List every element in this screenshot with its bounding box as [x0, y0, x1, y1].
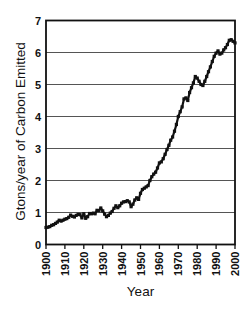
data-point: [139, 192, 142, 195]
data-point: [188, 91, 191, 94]
x-tick-label: 1970: [172, 252, 184, 276]
data-point: [128, 200, 131, 203]
data-point: [177, 115, 180, 118]
data-point: [207, 70, 210, 73]
data-point: [209, 65, 212, 68]
data-point: [131, 203, 134, 206]
data-point: [196, 77, 199, 80]
plot-area: 1900191019201930194019501960197019801990…: [0, 0, 245, 309]
y-tick-label: 0: [35, 239, 41, 251]
x-tick-label: 1920: [78, 252, 90, 276]
data-point: [99, 206, 102, 209]
y-tick-label: 6: [35, 47, 41, 59]
x-tick-label: 1910: [59, 252, 71, 276]
data-point: [171, 135, 174, 138]
data-point: [220, 52, 223, 55]
data-point: [137, 198, 140, 201]
x-axis-title: Year: [46, 284, 235, 299]
x-tick-label: 1990: [210, 252, 222, 276]
y-tick-label: 5: [35, 79, 41, 91]
data-point: [101, 209, 104, 212]
x-tick-label: 1930: [97, 252, 109, 276]
data-point: [186, 99, 189, 102]
data-point: [179, 110, 182, 113]
data-point: [147, 184, 150, 187]
data-point: [169, 139, 172, 142]
x-tick-label: 1960: [153, 252, 165, 276]
data-point: [224, 46, 227, 49]
data-point: [216, 49, 219, 52]
data-point: [203, 80, 206, 83]
data-point: [211, 60, 214, 63]
data-point: [173, 130, 176, 133]
data-point: [198, 80, 201, 83]
data-point: [201, 84, 204, 87]
x-tick-label: 1980: [191, 252, 203, 276]
data-point: [213, 55, 216, 58]
data-point: [94, 212, 97, 215]
data-point: [165, 148, 168, 151]
y-tick-label: 7: [35, 15, 41, 27]
data-point: [148, 179, 151, 182]
data-point: [154, 171, 157, 174]
y-tick-label: 1: [35, 207, 41, 219]
plot-frame: [46, 21, 235, 245]
y-tick-label: 4: [35, 111, 42, 123]
data-line: [46, 40, 235, 228]
data-point: [164, 153, 167, 156]
data-point: [181, 105, 184, 108]
x-tick-label: 1950: [135, 252, 147, 276]
x-tick-label: 2000: [229, 252, 241, 276]
data-point: [226, 43, 229, 46]
data-point: [167, 144, 170, 147]
data-point: [111, 210, 114, 213]
carbon-emissions-figure: Gtons/year of Carbon Emitted 19001910192…: [0, 0, 245, 309]
data-point: [160, 160, 163, 163]
data-point: [82, 212, 85, 215]
data-point: [233, 41, 236, 44]
data-point: [78, 213, 81, 216]
data-point: [80, 216, 83, 219]
data-point: [190, 86, 193, 89]
data-point: [175, 123, 178, 126]
x-tick-label: 1900: [40, 252, 52, 276]
x-tick-label: 1940: [116, 252, 128, 276]
y-tick-label: 3: [35, 143, 41, 155]
data-point: [86, 215, 89, 218]
data-point: [162, 157, 165, 160]
data-point: [205, 75, 208, 78]
data-point: [192, 81, 195, 84]
data-point: [156, 166, 159, 169]
y-tick-label: 2: [35, 175, 41, 187]
